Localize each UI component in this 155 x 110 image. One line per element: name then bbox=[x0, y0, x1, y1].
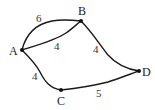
node-a bbox=[20, 48, 24, 52]
weighted-graph-diagram: A B C D 6 4 4 4 5 bbox=[0, 0, 155, 110]
node-b bbox=[79, 19, 83, 23]
weight-c-d: 5 bbox=[96, 87, 102, 99]
weight-a-b-upper: 6 bbox=[36, 12, 42, 24]
node-label-d: D bbox=[142, 65, 151, 79]
edge-a-b-lower bbox=[22, 21, 81, 50]
weight-a-b-lower: 4 bbox=[54, 40, 60, 52]
edge-b-d bbox=[81, 21, 139, 71]
node-d bbox=[137, 69, 141, 73]
weight-a-c: 4 bbox=[32, 70, 38, 82]
node-label-a: A bbox=[9, 44, 18, 58]
node-label-b: B bbox=[78, 4, 86, 18]
weight-b-d: 4 bbox=[93, 43, 99, 55]
node-c bbox=[59, 88, 63, 92]
node-label-c: C bbox=[57, 94, 65, 108]
edge-a-c bbox=[22, 50, 61, 90]
edge-a-b-upper bbox=[22, 20, 81, 50]
